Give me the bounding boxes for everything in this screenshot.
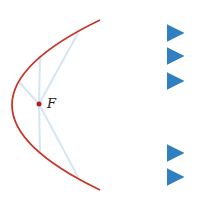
diagram-canvas [0, 0, 201, 205]
focus-label: F [47, 96, 56, 111]
parabola-diagram: F [0, 0, 201, 205]
focus-point [37, 102, 42, 107]
